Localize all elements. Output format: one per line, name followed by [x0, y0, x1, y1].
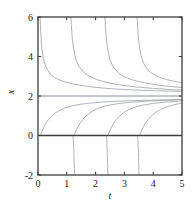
y-tick-label: 6 — [28, 12, 33, 23]
plot-canvas: 012345-20246 t x — [0, 0, 194, 203]
x-tick-label: 1 — [64, 178, 69, 189]
y-tick-label: 0 — [28, 130, 33, 141]
y-tick-label: -2 — [25, 170, 33, 181]
y-axis-title: x — [5, 89, 16, 95]
x-tick-label: 0 — [36, 178, 41, 189]
x-tick-label: 5 — [180, 178, 185, 189]
y-tick-label: 2 — [28, 91, 33, 102]
x-tick-label: 2 — [93, 178, 98, 189]
y-tick-label: 4 — [28, 51, 33, 62]
x-tick-label: 4 — [151, 178, 156, 189]
x-tick-label: 3 — [122, 178, 127, 189]
x-axis-title: t — [109, 190, 112, 201]
solution-curves-figure: 012345-20246 t x — [0, 0, 194, 203]
